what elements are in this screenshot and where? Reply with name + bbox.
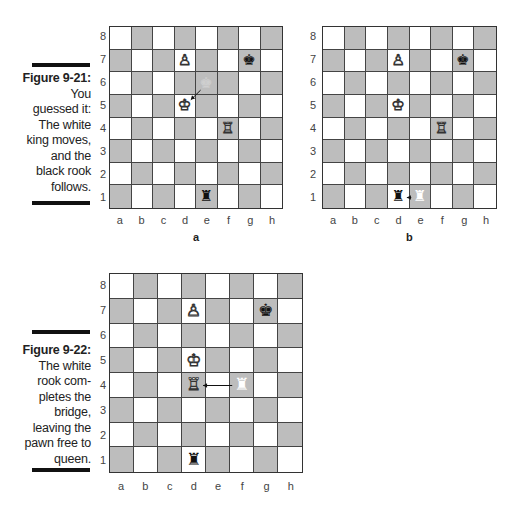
caption-line: leaving the — [10, 421, 91, 437]
rank-label: 2 — [97, 168, 109, 180]
square-b4 — [132, 118, 154, 141]
square-f8 — [218, 27, 240, 50]
square-h5 — [474, 95, 496, 118]
square-h1 — [278, 447, 302, 472]
square-g5 — [239, 95, 261, 118]
square-e3 — [206, 398, 230, 423]
square-c6 — [366, 72, 388, 95]
square-d5: ♔ — [388, 95, 410, 118]
square-h6 — [474, 72, 496, 95]
square-c7 — [366, 50, 388, 73]
caption-rule-bottom — [32, 201, 90, 205]
rank-label: 7 — [97, 53, 109, 65]
square-h1 — [474, 185, 496, 208]
square-d8 — [182, 274, 206, 299]
caption-line: guessed it: — [20, 102, 91, 118]
square-h4 — [261, 118, 283, 141]
square-a6 — [110, 324, 134, 349]
square-b6 — [134, 324, 158, 349]
square-e3 — [410, 140, 432, 163]
square-f8 — [431, 27, 453, 50]
square-e6: ♚ — [196, 72, 218, 95]
square-c8 — [366, 27, 388, 50]
square-e6 — [410, 72, 432, 95]
square-a3 — [110, 398, 134, 423]
square-c2 — [153, 163, 175, 186]
square-f2 — [230, 423, 254, 448]
square-f7 — [230, 299, 254, 324]
file-label: d — [174, 214, 196, 226]
caption-line: pawn free to — [10, 436, 91, 452]
square-d8 — [175, 27, 197, 50]
square-g4 — [239, 118, 261, 141]
square-b8 — [345, 27, 367, 50]
file-label: e — [409, 214, 431, 226]
square-b1 — [132, 185, 154, 208]
square-b2 — [345, 163, 367, 186]
square-e7 — [206, 299, 230, 324]
square-d7: ♙ — [175, 50, 197, 73]
square-a7 — [323, 50, 345, 73]
rank-label: 6 — [97, 329, 109, 341]
white-pawn-icon: ♙ — [178, 53, 191, 68]
square-d6 — [175, 72, 197, 95]
ghost-king-icon: ♚ — [200, 76, 213, 91]
square-a1 — [110, 447, 134, 472]
square-c2 — [158, 423, 182, 448]
square-h7 — [278, 299, 302, 324]
square-c7 — [153, 50, 175, 73]
square-c3 — [158, 398, 182, 423]
square-f1 — [431, 185, 453, 208]
square-e8 — [196, 27, 218, 50]
square-b5 — [132, 95, 154, 118]
square-c2 — [366, 163, 388, 186]
ghost-rook-icon: ♜ — [413, 189, 426, 204]
white-pawn-icon: ♙ — [391, 53, 404, 68]
square-g8 — [239, 27, 261, 50]
rank-label: 7 — [97, 304, 109, 316]
square-d5: ♔ — [182, 348, 206, 373]
file-label: f — [431, 214, 453, 226]
file-label: d — [388, 214, 410, 226]
figure-9-21-caption: Figure 9-21: Youguessed it:The whiteking… — [20, 71, 91, 195]
square-g6 — [453, 72, 475, 95]
square-a4 — [110, 118, 132, 141]
square-a3 — [110, 140, 132, 163]
square-g5 — [453, 95, 475, 118]
square-g3 — [453, 140, 475, 163]
file-label: e — [207, 480, 229, 492]
square-g8 — [453, 27, 475, 50]
square-c1 — [153, 185, 175, 208]
square-a5 — [110, 95, 132, 118]
square-h2 — [261, 163, 283, 186]
square-c7 — [158, 299, 182, 324]
square-d4: ♖ — [182, 373, 206, 398]
square-a5 — [323, 95, 345, 118]
square-c1 — [366, 185, 388, 208]
file-label: h — [280, 480, 302, 492]
square-d2 — [388, 163, 410, 186]
square-f3 — [230, 398, 254, 423]
square-d3 — [388, 140, 410, 163]
square-g3 — [239, 140, 261, 163]
square-f1 — [230, 447, 254, 472]
square-b3 — [345, 140, 367, 163]
square-b5 — [134, 348, 158, 373]
white-rook-icon: ♖ — [186, 376, 201, 393]
square-h4 — [474, 118, 496, 141]
black-rook-icon: ♜ — [391, 189, 404, 204]
square-e8 — [410, 27, 432, 50]
square-c8 — [153, 27, 175, 50]
square-d1: ♜ — [388, 185, 410, 208]
square-b2 — [132, 163, 154, 186]
figure-label: Figure 9-21: — [20, 71, 91, 87]
square-f5 — [230, 348, 254, 373]
square-d3 — [182, 398, 206, 423]
square-f8 — [230, 274, 254, 299]
square-e5 — [196, 95, 218, 118]
square-f6 — [230, 324, 254, 349]
square-d4 — [175, 118, 197, 141]
square-d6 — [388, 72, 410, 95]
rank-label: 3 — [97, 404, 109, 416]
caption-line: black rook — [20, 164, 91, 180]
